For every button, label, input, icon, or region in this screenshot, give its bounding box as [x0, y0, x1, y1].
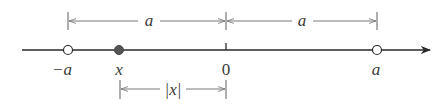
- top-bracket-left: a: [68, 11, 225, 30]
- label-x: x: [114, 60, 123, 79]
- point-pos-a: [373, 46, 382, 55]
- label-zero: 0: [222, 60, 231, 79]
- label-pos-a: a: [372, 60, 381, 79]
- point-neg-a: [64, 46, 73, 55]
- bottom-bracket-abs-x: |x|: [120, 80, 226, 99]
- point-x: [115, 46, 124, 55]
- label-neg-a: −a: [52, 60, 72, 79]
- bottom-bracket-label: |x|: [165, 80, 182, 99]
- top-left-bracket-label: a: [145, 11, 154, 30]
- number-line-diagram: −a x 0 a a a |x|: [0, 0, 443, 105]
- top-right-bracket-label: a: [298, 11, 307, 30]
- top-bracket-right: a: [227, 11, 377, 30]
